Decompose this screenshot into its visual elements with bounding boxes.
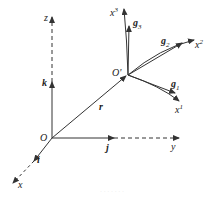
g3-vector — [128, 26, 129, 75]
local-origin-label: O' — [112, 67, 122, 78]
g2-vector — [128, 43, 182, 75]
z-axis-label: z — [43, 12, 48, 23]
svg-text:x3: x3 — [109, 6, 118, 18]
r-vector-label: r — [99, 101, 103, 112]
svg-text:x1: x1 — [174, 103, 183, 115]
i-vector-label: i — [37, 154, 40, 165]
diagram-canvas: z k O j y i x r O' x3 g3 g2 x2 g1 x1 · ·… — [0, 0, 213, 198]
y-axis-label: y — [170, 141, 176, 152]
k-vector-label: k — [42, 77, 47, 88]
x1-label: x1 — [174, 103, 183, 115]
faded-caption: · · · · · · · — [100, 188, 124, 194]
g2-label: g2 — [160, 35, 170, 49]
coordinate-diagram: z k O j y i x r O' x3 g3 g2 x2 g1 x1 · ·… — [0, 0, 213, 198]
svg-text:g1: g1 — [170, 78, 180, 92]
g1-vector — [128, 75, 175, 93]
x2-label: x2 — [194, 38, 203, 50]
svg-text:g3: g3 — [132, 17, 142, 31]
x3-label: x3 — [109, 6, 118, 18]
x-axis-label: x — [17, 179, 23, 190]
g1-label: g1 — [170, 78, 180, 92]
origin-label: O — [40, 132, 47, 143]
x3-curve — [124, 9, 128, 75]
position-vector-r — [52, 76, 126, 138]
j-vector-label: j — [104, 142, 109, 153]
svg-text:x2: x2 — [194, 38, 203, 50]
svg-text:g2: g2 — [160, 35, 170, 49]
x-axis — [13, 138, 52, 183]
g3-label: g3 — [132, 17, 142, 31]
